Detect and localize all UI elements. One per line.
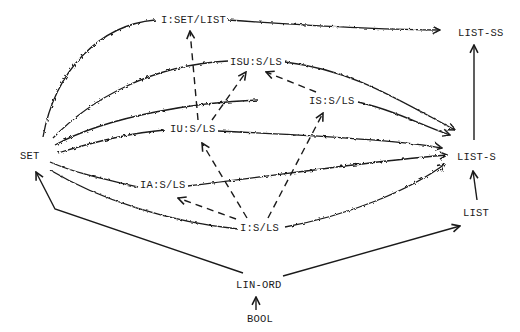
node-ia-s-ls: IA:S/LS (140, 179, 186, 191)
node-bool: BOOL (247, 313, 273, 325)
edge-ia-to-list-s (188, 155, 447, 186)
edge-i-s-ls-to-ia (178, 198, 236, 219)
edge-i-set-list-to-list-ss (228, 20, 440, 30)
edge-iu-to-i-set-list (190, 31, 198, 120)
node-iu-s-ls: IU:S/LS (170, 123, 216, 135)
node-list-ss: LIST-SS (458, 27, 504, 39)
node-isu-s-ls: ISU:S/LS (230, 56, 282, 68)
edge-is-to-isu (266, 72, 316, 92)
node-i-s-ls: I:S/LS (240, 222, 279, 234)
node-i-set-list: I:SET/LIST (161, 14, 226, 26)
edge-i-s-ls-to-is (268, 113, 323, 218)
edge-set-to-iu (58, 130, 165, 153)
node-lin-ord: LIN-ORD (236, 279, 282, 291)
wavy-edges (43, 20, 455, 229)
edge-list-to-list-s (473, 171, 477, 200)
edge-lin-ord-to-list (283, 226, 460, 276)
edge-set-to-i-set-list (43, 20, 155, 137)
edge-set-to-ia (50, 162, 138, 187)
node-is-s-ls: IS:S/LS (309, 95, 355, 107)
edge-i-s-ls-to-iu (202, 143, 247, 218)
edge-is-to-list-s (358, 102, 450, 135)
node-list: LIST (463, 207, 489, 219)
edge-set-to-is (55, 100, 258, 145)
edge-iu-to-list-s (218, 131, 442, 148)
node-list-s: LIST-S (457, 151, 496, 163)
node-set: SET (20, 150, 40, 162)
edge-i-s-ls-to-list-s (285, 164, 445, 227)
edge-iu-to-isu (212, 72, 246, 120)
